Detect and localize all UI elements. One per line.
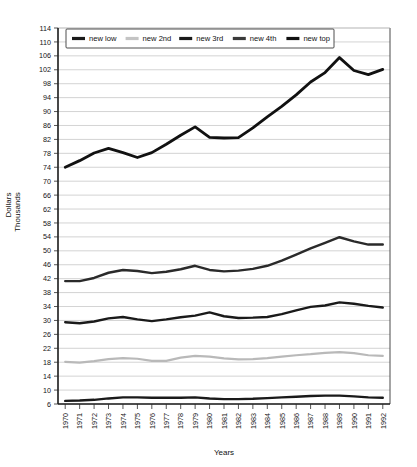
y-tick-label: 86 bbox=[43, 121, 51, 130]
x-tick-label: 1982 bbox=[234, 413, 243, 429]
y-axis-title-line2: Thousands bbox=[13, 192, 22, 232]
x-tick-label: 1975 bbox=[133, 413, 142, 429]
x-tick-label: 1991 bbox=[364, 413, 373, 429]
y-tick-label: 74 bbox=[43, 163, 51, 172]
x-tick-label: 1978 bbox=[176, 413, 185, 429]
y-tick-label: 22 bbox=[43, 344, 51, 353]
series-line-new-top bbox=[65, 58, 383, 168]
y-tick-label: 114 bbox=[40, 24, 51, 33]
x-tick-label: 1980 bbox=[205, 413, 214, 429]
legend-label-new-low: new low bbox=[89, 34, 117, 43]
x-tick-label: 1988 bbox=[321, 413, 330, 429]
y-tick-label: 10 bbox=[43, 386, 51, 395]
x-tick-label: 1979 bbox=[191, 413, 200, 429]
y-tick-label: 98 bbox=[43, 79, 51, 88]
x-tick-label: 1970 bbox=[61, 413, 70, 429]
y-tick-label: 62 bbox=[43, 205, 51, 214]
y-tick-label: 70 bbox=[43, 177, 51, 186]
y-tick-label: 50 bbox=[43, 246, 51, 255]
legend-label-new-4th: new 4th bbox=[250, 34, 277, 43]
x-tick-label: 1986 bbox=[292, 413, 301, 429]
x-tick-label: 1974 bbox=[119, 413, 128, 429]
x-tick-label: 1983 bbox=[249, 413, 258, 429]
chart-canvas: 6101418222630343842465054586266707478828… bbox=[0, 0, 417, 467]
y-axis-title-line1: Dollars bbox=[4, 193, 13, 218]
x-tick-label: 1971 bbox=[75, 413, 84, 429]
y-tick-label: 110 bbox=[40, 38, 51, 47]
series-line-new-2nd bbox=[65, 352, 383, 362]
series-line-new-3rd bbox=[65, 302, 383, 323]
y-tick-label: 14 bbox=[43, 372, 51, 381]
y-tick-label: 78 bbox=[43, 149, 51, 158]
y-tick-label: 18 bbox=[43, 358, 51, 367]
gridlines bbox=[58, 28, 390, 404]
plot-frame bbox=[58, 28, 390, 404]
y-axis-title: Dollars Thousands bbox=[4, 192, 22, 232]
y-tick-label: 82 bbox=[43, 135, 51, 144]
x-tick-label: 1981 bbox=[220, 413, 229, 429]
y-tick-label: 6 bbox=[47, 400, 51, 409]
y-tick-label: 102 bbox=[39, 65, 51, 74]
y-tick-label: 26 bbox=[43, 330, 51, 339]
legend-label-new-3rd: new 3rd bbox=[196, 34, 223, 43]
series-line-new-4th bbox=[65, 237, 383, 281]
x-tick-label: 1973 bbox=[104, 413, 113, 429]
y-tick-label: 90 bbox=[43, 107, 51, 116]
x-tick-label: 1992 bbox=[379, 413, 388, 429]
chart-legend: new lownew 2ndnew 3rdnew 4thnew top bbox=[66, 29, 334, 48]
x-axis-title: Years bbox=[214, 448, 234, 457]
x-tick-label: 1989 bbox=[335, 413, 344, 429]
y-tick-label: 94 bbox=[43, 93, 51, 102]
y-tick-label: 30 bbox=[43, 316, 51, 325]
x-tick-label: 1984 bbox=[263, 413, 272, 429]
data-series bbox=[65, 58, 383, 401]
x-tick-label: 1990 bbox=[350, 413, 359, 429]
line-chart: 6101418222630343842465054586266707478828… bbox=[0, 0, 417, 467]
x-tick-label: 1985 bbox=[278, 413, 287, 429]
x-tick-label: 1972 bbox=[90, 413, 99, 429]
x-tick-label: 1977 bbox=[162, 413, 171, 429]
x-tick-label: 1987 bbox=[306, 413, 315, 429]
y-axis-ticks: 6101418222630343842465054586266707478828… bbox=[39, 24, 58, 409]
x-tick-label: 1976 bbox=[148, 413, 157, 429]
y-tick-label: 38 bbox=[43, 288, 51, 297]
y-tick-label: 46 bbox=[43, 260, 51, 269]
y-tick-label: 34 bbox=[43, 302, 51, 311]
legend-label-new-top: new top bbox=[303, 34, 330, 43]
y-tick-label: 42 bbox=[43, 274, 51, 283]
legend-label-new-2nd: new 2nd bbox=[143, 34, 172, 43]
y-tick-label: 106 bbox=[39, 51, 51, 60]
y-tick-label: 58 bbox=[43, 219, 51, 228]
y-tick-label: 54 bbox=[43, 232, 51, 241]
y-tick-label: 66 bbox=[43, 191, 51, 200]
series-line-new-low bbox=[65, 396, 383, 401]
x-axis-ticks: 1970197119721973197419751976197719781979… bbox=[61, 404, 388, 429]
